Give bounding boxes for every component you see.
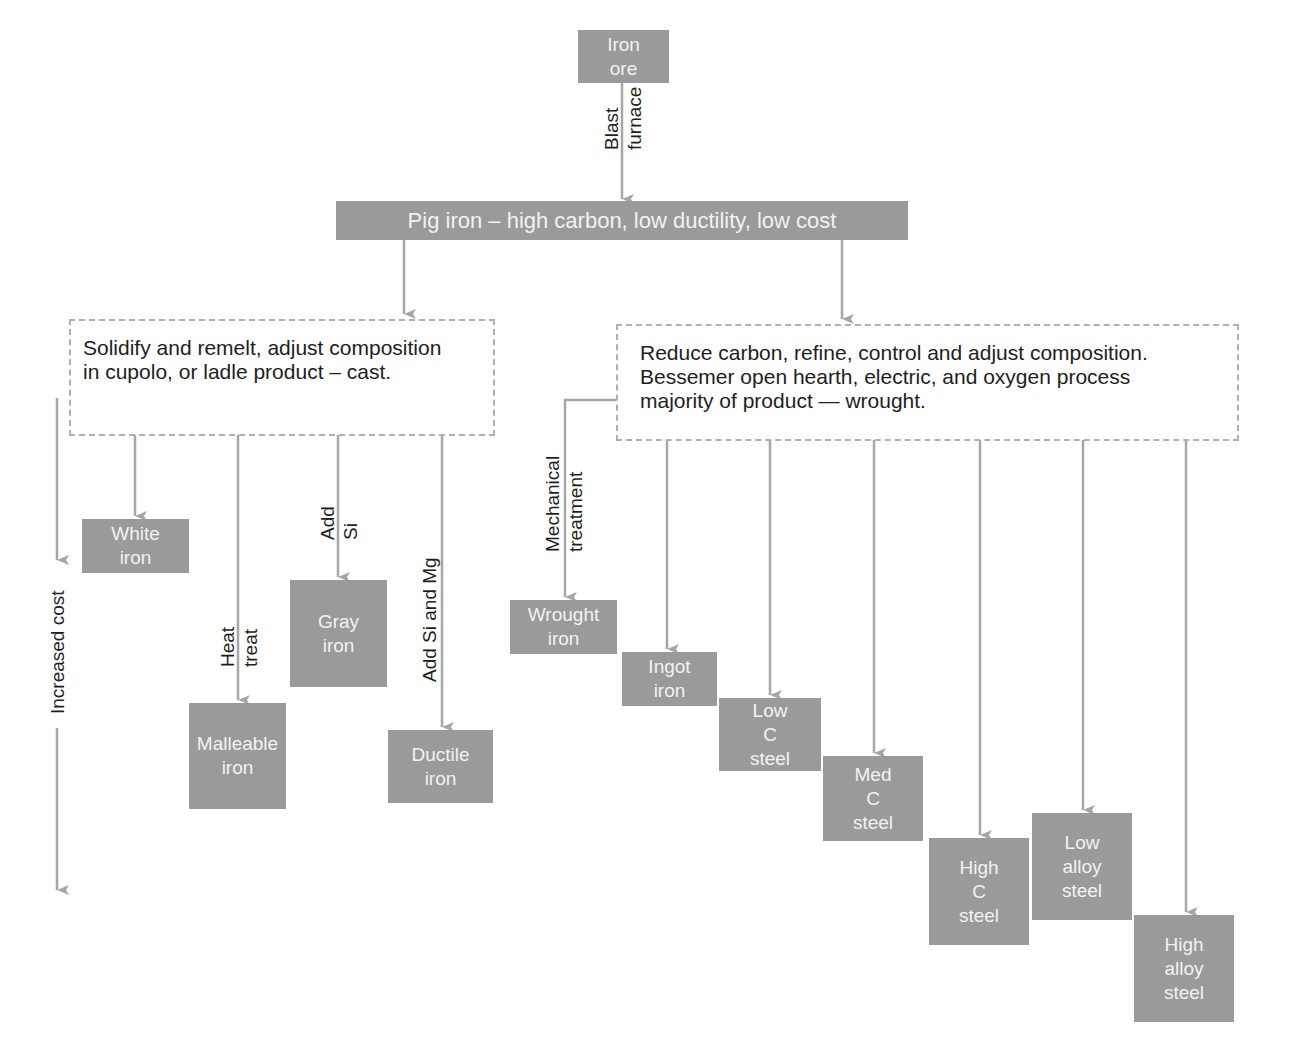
node-low-c-steel: Low C steel: [719, 698, 821, 771]
node-iron-ore: Iron ore: [578, 30, 669, 83]
node-gray-iron: Gray iron: [290, 580, 387, 687]
process-cast: Solidify and remelt, adjust composition …: [69, 319, 495, 436]
node-ingot-iron: Ingot iron: [622, 652, 717, 706]
iron-steel-process-diagram: Iron ore Pig iron – high carbon, low duc…: [0, 0, 1290, 1045]
node-pig-iron: Pig iron – high carbon, low ductility, l…: [336, 201, 908, 240]
label-add-si: Add Si: [316, 506, 362, 540]
node-high-alloy-steel: High alloy steel: [1134, 915, 1234, 1022]
label-mechanical-treatment: Mechanical treatment: [541, 456, 587, 552]
node-high-c-steel: High C steel: [929, 838, 1029, 945]
node-ductile-iron: Ductile iron: [388, 730, 493, 803]
label-add-si-and-mg: Add Si and Mg: [418, 557, 441, 682]
node-wrought-iron: Wrought iron: [510, 600, 617, 654]
label-heat-treat: Heat treat: [216, 627, 262, 667]
process-wrought: Reduce carbon, refine, control and adjus…: [616, 324, 1239, 441]
label-blast-furnace: Blast furnace: [600, 87, 646, 150]
node-med-c-steel: Med C steel: [823, 756, 923, 841]
node-malleable-iron: Malleable iron: [189, 703, 286, 809]
node-white-iron: White iron: [82, 519, 189, 573]
node-low-alloy-steel: Low alloy steel: [1032, 813, 1132, 920]
label-increased-cost: Increased cost: [46, 590, 69, 714]
